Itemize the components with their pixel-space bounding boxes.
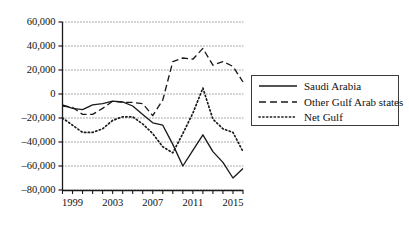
x-axis-tick-label: 1999: [53, 198, 93, 209]
legend-item-saudi-arabia: Saudi Arabia: [258, 78, 361, 94]
chart-container: 60,00040,00020,0000–20,000–40,000–60,000…: [0, 0, 409, 225]
y-axis-tick-label: 20,000: [27, 65, 56, 76]
x-axis-tick-label: 2015: [213, 198, 253, 209]
chart-legend: Saudi Arabia Other Gulf Arab states Net …: [251, 75, 399, 126]
legend-line-solid-icon: [258, 80, 298, 92]
legend-label: Net Gulf: [304, 112, 343, 123]
y-axis-tick-label: –80,000: [21, 185, 55, 196]
x-axis-tick-label: 2003: [93, 198, 133, 209]
legend-item-other-gulf-arab-states: Other Gulf Arab states: [258, 94, 403, 110]
series-line: [63, 88, 244, 153]
y-axis-tick-label: –20,000: [21, 113, 55, 124]
y-axis-tick-label: –60,000: [21, 161, 55, 172]
y-axis-tick-label: –40,000: [21, 137, 55, 148]
x-axis-tick-label: 2007: [133, 198, 173, 209]
y-axis-tick-label: 60,000: [27, 17, 56, 28]
y-axis-tick-label: 0: [50, 89, 55, 100]
x-axis-tick-label: 2011: [173, 198, 213, 209]
series-line: [63, 101, 244, 178]
data-series-group: [63, 48, 244, 178]
legend-label: Other Gulf Arab states: [304, 97, 403, 108]
legend-line-dotted-icon: [258, 111, 298, 123]
legend-item-net-gulf: Net Gulf: [258, 109, 343, 125]
legend-label: Saudi Arabia: [304, 81, 361, 92]
legend-line-dashed-icon: [258, 96, 298, 108]
y-axis-tick-label: 40,000: [27, 41, 56, 52]
